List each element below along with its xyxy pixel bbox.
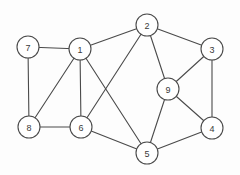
node-circle-5 bbox=[136, 142, 158, 164]
node-circle-3 bbox=[201, 38, 223, 60]
node-circle-2 bbox=[136, 14, 158, 36]
graph-node-2[interactable]: 2 bbox=[136, 14, 158, 36]
graph-edge-1-6 bbox=[80, 49, 81, 127]
graph-node-6[interactable]: 6 bbox=[70, 116, 92, 138]
graph-node-7[interactable]: 7 bbox=[17, 36, 39, 58]
node-circle-7 bbox=[17, 36, 39, 58]
node-circle-9 bbox=[157, 78, 179, 100]
graph-edge-1-8 bbox=[29, 49, 80, 127]
graph-diagram: 123456789 bbox=[0, 0, 240, 175]
nodes-layer: 123456789 bbox=[17, 14, 223, 164]
edges-layer bbox=[28, 25, 212, 153]
graph-edge-7-8 bbox=[28, 47, 29, 127]
graph-node-1[interactable]: 1 bbox=[69, 38, 91, 60]
node-circle-8 bbox=[18, 116, 40, 138]
node-circle-4 bbox=[201, 117, 223, 139]
node-circle-6 bbox=[70, 116, 92, 138]
graph-edge-2-6 bbox=[81, 25, 147, 127]
graph-node-8[interactable]: 8 bbox=[18, 116, 40, 138]
graph-node-9[interactable]: 9 bbox=[157, 78, 179, 100]
graph-node-4[interactable]: 4 bbox=[201, 117, 223, 139]
graph-node-3[interactable]: 3 bbox=[201, 38, 223, 60]
graph-edge-1-5 bbox=[80, 49, 147, 153]
graph-node-5[interactable]: 5 bbox=[136, 142, 158, 164]
node-circle-1 bbox=[69, 38, 91, 60]
